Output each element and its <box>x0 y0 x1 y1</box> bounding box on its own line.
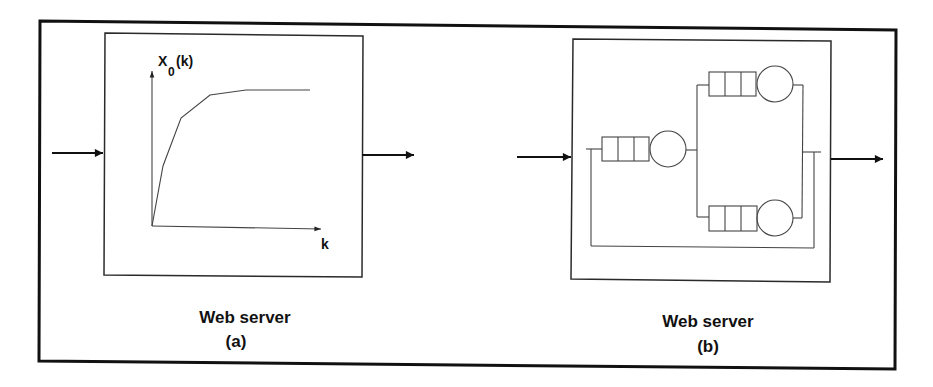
caption-label-a: (a) <box>226 332 247 351</box>
front-end-queue <box>602 131 686 167</box>
x-axis <box>152 226 321 229</box>
join-vertical <box>802 85 803 218</box>
caption-title-a: Web server <box>199 308 291 327</box>
figure-canvas: X 0 (k) k Web server (a) <box>0 0 933 387</box>
server-circle <box>757 66 793 102</box>
server-circle <box>650 131 686 167</box>
queue-buffer <box>709 72 756 96</box>
server-circle <box>757 200 793 236</box>
queueing-network <box>586 66 821 248</box>
lower-back-end-queue <box>709 200 793 236</box>
queue-buffer <box>709 206 757 231</box>
feedback-bottom <box>591 246 814 248</box>
y-axis-label-arg: (k) <box>176 53 193 69</box>
y-axis-label-subscript: 0 <box>168 65 175 79</box>
caption-title-b: Web server <box>662 312 754 331</box>
x-axis-label: k <box>321 236 329 252</box>
panel-b: Web server (b) <box>517 39 883 356</box>
queue-buffer <box>602 137 649 161</box>
panel-a: X 0 (k) k Web server (a) <box>52 33 414 351</box>
throughput-curve <box>152 90 310 226</box>
upper-back-end-queue <box>709 66 793 102</box>
y-axis-label-main: X <box>158 53 168 69</box>
caption-label-b: (b) <box>697 337 719 356</box>
throughput-chart: X 0 (k) k <box>152 53 329 252</box>
